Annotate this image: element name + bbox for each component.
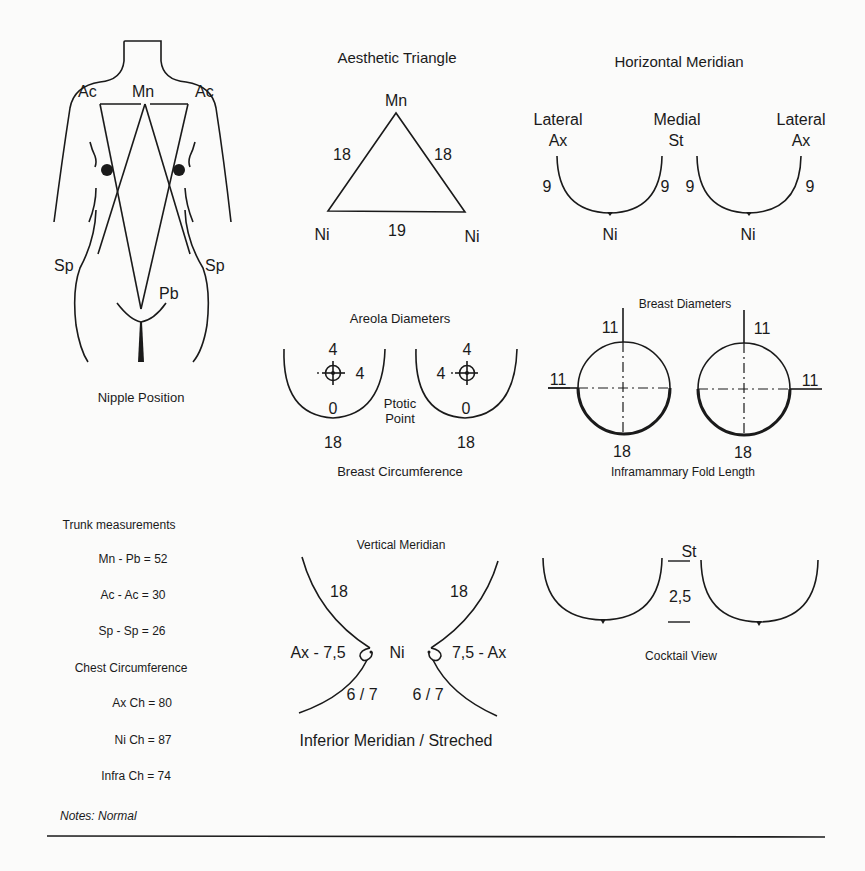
left-horizontal-diameter: 11 <box>550 371 567 388</box>
medial-label: Medial <box>653 111 700 128</box>
right-ac-to-pb <box>141 104 188 309</box>
right-nipple-label: Ni <box>740 226 755 243</box>
measurement-sheet: Ac Mn Ac Sp Sp Pb Nipple Position Aesthe… <box>0 0 865 871</box>
label-pb: Pb <box>159 285 179 302</box>
cocktail-view: St 2,5 Cocktail View <box>543 543 818 663</box>
left-nipple-dot <box>101 164 113 176</box>
cocktail-view-label: Cocktail View <box>645 649 717 663</box>
trunk-item-sp-sp: Sp - Sp = 26 <box>98 624 165 638</box>
chest-item-ni: Ni Ch = 87 <box>114 733 171 747</box>
right-lower-value: 6 / 7 <box>412 686 443 703</box>
left-areola-vertical: 4 <box>329 341 338 358</box>
triangle-base-value: 19 <box>388 222 406 239</box>
ptotic-label: Ptotic <box>384 396 417 411</box>
aesthetic-triangle-title: Aesthetic Triangle <box>337 49 456 66</box>
perineum-mark <box>138 322 144 362</box>
left-lateral-value: 9 <box>543 178 552 195</box>
areola-title: Areola Diameters <box>350 311 451 326</box>
triangle-right-side-value: 18 <box>434 146 452 163</box>
right-nipple-dot <box>173 164 185 176</box>
chest-item-ax: Ax Ch = 80 <box>112 696 172 710</box>
left-ax-label: Ax <box>549 132 568 149</box>
st-label: St <box>668 132 684 149</box>
left-nipple-label: Ni <box>602 226 617 243</box>
nipple-position-figure: Ac Mn Ac Sp Sp Pb Nipple Position <box>54 41 231 405</box>
breast-diameters: Breast Diameters 11 11 18 11 11 18 Infra… <box>548 297 822 479</box>
left-ptosis-value: 0 <box>329 400 338 417</box>
horizontal-meridian: Horizontal Meridian Lateral Ax Medial St… <box>534 53 826 243</box>
right-vertical-diameter: 11 <box>754 320 771 337</box>
notes-section: Notes: Normal <box>47 809 825 837</box>
breast-circumference-label: Breast Circumference <box>337 464 463 479</box>
nipple-position-title: Nipple Position <box>98 390 185 405</box>
label-ac-right: Ac <box>195 83 214 100</box>
left-fold-length: 18 <box>613 443 631 460</box>
right-axilla-curl <box>189 142 195 167</box>
left-lower-value: 6 / 7 <box>346 686 377 703</box>
right-medial-value: 9 <box>686 178 695 195</box>
left-torso-outline <box>75 210 96 362</box>
notes-text: Notes: Normal <box>60 809 137 823</box>
areola-diameters: Areola Diameters 4 4 0 18 4 4 0 18 Ptoti… <box>284 311 517 479</box>
trunk-item-mn-pb: Mn - Pb = 52 <box>98 552 167 566</box>
triangle-right-vertex: Ni <box>464 228 479 245</box>
inframammary-fold-label: Inframammary Fold Length <box>611 465 755 479</box>
right-areola-vertical: 4 <box>463 341 472 358</box>
triangle-left-side-value: 18 <box>333 146 351 163</box>
left-areola-horizontal: 4 <box>356 365 365 382</box>
right-ax-distance: 7,5 - Ax <box>452 644 506 661</box>
right-fold-length: 18 <box>734 444 752 461</box>
left-ax-distance: Ax - 7,5 <box>290 644 345 661</box>
label-sp-right: Sp <box>205 257 225 274</box>
left-circumference: 18 <box>324 434 342 451</box>
right-upper-curve <box>431 561 498 648</box>
right-breast-horizontal-curve <box>697 156 801 213</box>
inferior-meridian-label: Inferior Meridian / Streched <box>300 732 493 749</box>
left-areola-dot <box>317 372 319 374</box>
point-label: Point <box>385 411 415 426</box>
right-angle-mark <box>429 648 441 661</box>
right-lateral-value: 9 <box>806 178 815 195</box>
left-nipple-marker <box>607 212 613 216</box>
cocktail-distance-value: 2,5 <box>669 588 691 605</box>
notes-divider <box>47 836 825 837</box>
left-upper-curve <box>302 557 370 648</box>
left-angle-mark <box>360 648 372 661</box>
right-horizontal-diameter: 11 <box>802 372 819 389</box>
right-ptosis-value: 0 <box>462 400 471 417</box>
horizontal-meridian-title: Horizontal Meridian <box>614 53 743 70</box>
right-upper-value: 18 <box>450 583 468 600</box>
right-ni-point <box>428 651 431 654</box>
right-circumference: 18 <box>457 434 475 451</box>
right-areola-horizontal: 4 <box>437 365 446 382</box>
left-lateral-label: Lateral <box>534 111 583 128</box>
vertical-meridian: Vertical Meridian 18 18 Ax - 7,5 Ni 7,5 … <box>290 538 506 749</box>
label-sp-left: Sp <box>54 257 74 274</box>
right-cocktail-nipple <box>756 621 762 626</box>
left-inframammary-arc <box>578 388 670 434</box>
vertical-meridian-title: Vertical Meridian <box>357 538 446 552</box>
trunk-item-ac-ac: Ac - Ac = 30 <box>100 588 165 602</box>
neck-outline <box>124 41 161 61</box>
cocktail-st-label: St <box>681 543 697 560</box>
right-torso-outline <box>185 210 208 362</box>
chest-item-infra: Infra Ch = 74 <box>101 769 171 783</box>
trunk-title: Trunk measurements <box>63 518 176 532</box>
breast-diameters-title: Breast Diameters <box>639 297 732 311</box>
right-lateral-label: Lateral <box>777 111 826 128</box>
left-upper-value: 18 <box>330 583 348 600</box>
triangle-apex-label: Mn <box>385 92 407 109</box>
chest-circumference-title: Chest Circumference <box>75 661 188 675</box>
left-breast-upper-arc <box>578 342 670 388</box>
left-vertical-diameter: 11 <box>602 319 619 336</box>
right-nipple-marker <box>746 212 752 216</box>
right-areola-dot <box>451 372 453 374</box>
left-axilla-curl <box>90 142 96 167</box>
left-breast-horizontal-curve <box>557 156 662 213</box>
center-ni-label: Ni <box>389 644 404 661</box>
aesthetic-triangle: Aesthetic Triangle Mn 18 18 19 Ni Ni <box>314 49 479 245</box>
left-ni-point <box>370 651 373 654</box>
right-ax-label: Ax <box>792 132 811 149</box>
trunk-measurements: Trunk measurements Mn - Pb = 52 Ac - Ac … <box>63 518 188 783</box>
left-cocktail-curve <box>543 558 662 620</box>
